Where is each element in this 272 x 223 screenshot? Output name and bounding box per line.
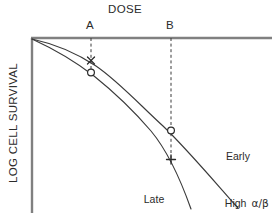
y-axis-label-container: LOG CELL SURVIVAL bbox=[0, 48, 26, 198]
early-curve-annotation-word: High bbox=[225, 197, 247, 209]
early-curve-alpha-beta-symbol: α/β bbox=[251, 197, 268, 209]
early-curve-annotation: Early Highα/β bbox=[207, 127, 269, 223]
y-axis-label: LOG CELL SURVIVAL bbox=[7, 63, 19, 183]
marker-early-at-b-circle bbox=[168, 127, 175, 134]
late-curve-annotation: Late Lowα/β bbox=[123, 170, 185, 223]
chart-title: DOSE bbox=[108, 3, 142, 16]
late-curve-annotation-line1: Late bbox=[123, 194, 185, 206]
early-curve-annotation-line2: Highα/β bbox=[207, 186, 269, 221]
dose-b-tick-label: B bbox=[166, 19, 174, 32]
dose-a-tick-label: A bbox=[86, 19, 94, 32]
early-curve-annotation-line1: Early bbox=[207, 151, 269, 163]
marker-late-at-a-circle bbox=[88, 69, 95, 76]
dose-response-figure: DOSE A B LOG CELL SURVIVAL Early Highα/β… bbox=[0, 0, 272, 223]
